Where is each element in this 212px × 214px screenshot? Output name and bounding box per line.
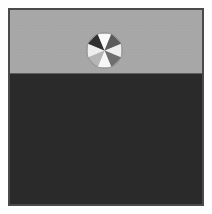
scene-frame <box>8 8 204 206</box>
ground-region <box>10 74 202 204</box>
beach-ball-segments <box>87 33 121 67</box>
horizon-line <box>10 73 202 74</box>
beach-ball-svg <box>86 32 123 69</box>
scene-figure <box>0 0 212 214</box>
beach-ball <box>86 32 123 69</box>
